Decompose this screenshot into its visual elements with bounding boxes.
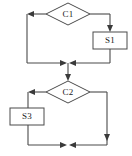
arrow-down-icon bbox=[107, 25, 113, 32]
flowchart-canvas: C1 S1 C2 S3 bbox=[0, 0, 132, 156]
arrow-right-icon bbox=[60, 60, 67, 66]
node-label-s1: S1 bbox=[105, 35, 115, 45]
edge-s1-to-merge-upper bbox=[69, 49, 110, 66]
node-label-c2: C2 bbox=[63, 87, 74, 97]
edge-c1-right-to-s1 bbox=[90, 14, 113, 32]
edge-c2-left-to-s3 bbox=[28, 89, 46, 108]
edge-s3-to-merge-lower bbox=[28, 125, 67, 148]
node-s1[interactable]: S1 bbox=[93, 32, 127, 49]
edge-merge-upper-to-c2 bbox=[65, 63, 71, 81]
node-c1[interactable]: C1 bbox=[46, 3, 90, 25]
arrow-left-icon bbox=[28, 89, 35, 95]
arrow-down-icon bbox=[65, 74, 71, 81]
edge-c2-right-branch bbox=[69, 92, 110, 148]
arrow-left-icon bbox=[69, 60, 76, 66]
node-label-s3: S3 bbox=[22, 111, 32, 121]
node-label-c1: C1 bbox=[63, 9, 74, 19]
arrow-right-icon bbox=[60, 142, 67, 148]
arrow-down-icon bbox=[104, 134, 110, 141]
arrow-left-icon bbox=[27, 11, 34, 17]
arrow-left-icon bbox=[69, 142, 76, 148]
node-c2[interactable]: C2 bbox=[46, 81, 90, 103]
flowchart-svg: C1 S1 C2 S3 bbox=[0, 0, 132, 156]
node-s3[interactable]: S3 bbox=[10, 108, 44, 125]
